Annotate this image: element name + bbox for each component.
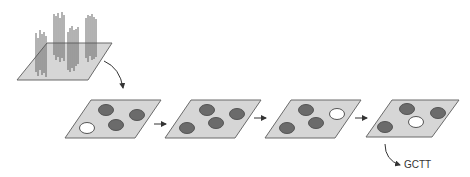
cycle-plate-2 <box>165 100 261 138</box>
diagram-canvas <box>0 0 470 177</box>
cycle-plate-1 <box>65 100 161 138</box>
source-plate <box>17 12 112 80</box>
output-arrow <box>385 144 400 165</box>
cycle-plate-4 <box>366 100 459 137</box>
feed-arrow <box>104 61 123 88</box>
cycle-plate-3 <box>265 100 361 138</box>
sequence-output-label: GCTT <box>404 159 431 170</box>
